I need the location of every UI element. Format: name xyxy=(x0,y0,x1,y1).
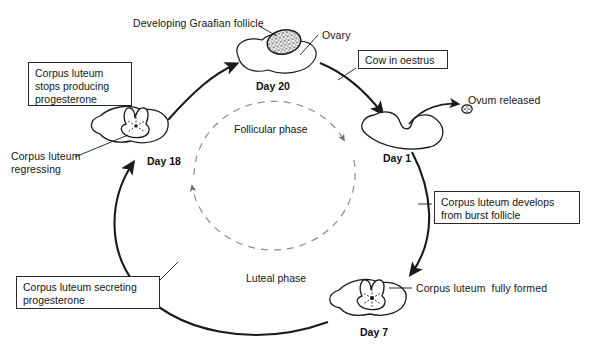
corpus-luteum-core xyxy=(370,296,374,300)
follicular-phase-arc xyxy=(194,101,344,175)
day-label-day-20: Day 20 xyxy=(256,80,290,92)
label-developing-graafian-follicle: Developing Graafian follicle xyxy=(133,17,264,30)
label-ovary: Ovary xyxy=(322,29,351,42)
callout-corpus-luteum-stops-producing: Corpus luteum stops producing progestero… xyxy=(28,62,132,106)
connector-cl-secreting xyxy=(160,262,178,280)
label-luteal-phase: Luteal phase xyxy=(246,272,306,284)
callout-connectors xyxy=(160,68,432,280)
luteal-phase-arc xyxy=(192,160,355,250)
ovary-day-7 xyxy=(330,279,412,315)
label-corpus-luteum-regressing: Corpus luteum regressing xyxy=(11,150,81,175)
label-corpus-luteum-fully-formed: Corpus luteum fully formed xyxy=(416,282,547,295)
ovary-day-1 xyxy=(362,104,472,149)
arrow-day20-to-day1 xyxy=(320,63,382,113)
day-label-day-7: Day 7 xyxy=(360,326,388,338)
ovary-icon xyxy=(362,112,443,149)
arrow-day7-to-day18 xyxy=(114,163,328,335)
ovary-day-18 xyxy=(75,106,168,157)
label-ovum-released: Ovum released xyxy=(468,94,541,107)
ovary-day-20 xyxy=(237,26,318,73)
callout-corpus-luteum-secreting: Corpus luteum secreting progesterone xyxy=(16,276,160,309)
callout-cow-in-oestrus: Cow in oestrus xyxy=(358,50,448,69)
day-label-day-1: Day 1 xyxy=(383,152,411,164)
callout-corpus-luteum-develops: Corpus luteum develops from burst follic… xyxy=(434,191,580,224)
corpus-luteum-core xyxy=(135,125,138,128)
oestrous-cycle-diagram: Developing Graafian follicle Ovary Ovum … xyxy=(0,0,596,356)
arrow-day18-to-day20 xyxy=(168,64,236,120)
leader-cl-regressing xyxy=(75,135,128,157)
label-follicular-phase: Follicular phase xyxy=(234,123,308,135)
day-label-day-18: Day 18 xyxy=(147,155,181,167)
arrow-day1-to-day7 xyxy=(411,152,429,274)
